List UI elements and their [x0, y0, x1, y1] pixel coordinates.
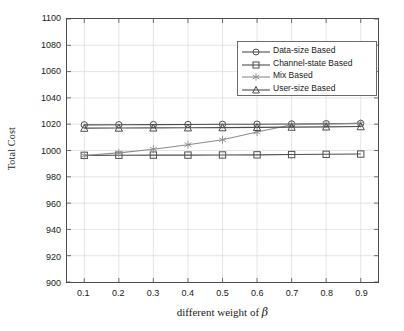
series-2 [81, 119, 364, 159]
legend: Data-size BasedChannel-state BasedMix Ba… [237, 41, 377, 96]
series-line [84, 154, 360, 155]
x-tick-label: 0.4 [181, 288, 194, 298]
x-tick-label: 0.5 [216, 288, 229, 298]
y-tick-label: 1000 [41, 146, 61, 156]
x-tick-label: 0.9 [355, 288, 368, 298]
x-axis-title-text: different weight of [177, 306, 262, 318]
y-tick-label: 920 [46, 252, 61, 262]
legend-marker-square-icon [241, 57, 271, 69]
y-axis-title: Total Cost [6, 127, 22, 170]
legend-item-star[interactable]: Mix Based [241, 69, 373, 82]
series-line [84, 127, 360, 129]
x-tick-label: 0.8 [321, 288, 334, 298]
legend-marker-star-icon [241, 69, 271, 81]
y-tick-label: 1100 [42, 13, 61, 23]
y-tick-label: 1020 [41, 119, 61, 129]
legend-marker-circle-icon [241, 44, 271, 56]
x-axis-tick-labels: 0.10.20.30.40.50.60.70.80.9 [66, 288, 379, 302]
y-tick-label: 1060 [41, 66, 61, 76]
y-tick-label: 940 [46, 225, 61, 235]
x-tick-label: 0.7 [286, 288, 299, 298]
x-tick-label: 0.1 [77, 288, 90, 298]
legend-label: Data-size Based [271, 45, 335, 55]
x-tick-label: 0.6 [251, 288, 264, 298]
y-tick-label: 1040 [41, 93, 61, 103]
beta-symbol: β [262, 306, 268, 319]
x-axis-title: different weight of β [66, 306, 379, 319]
y-tick-label: 1080 [41, 40, 61, 50]
y-tick-label: 960 [46, 199, 61, 209]
legend-item-triangle[interactable]: User-size Based [241, 82, 373, 95]
x-tick-label: 0.3 [147, 288, 160, 298]
legend-label: User-size Based [271, 83, 335, 93]
legend-label: Mix Based [271, 70, 313, 80]
legend-item-circle[interactable]: Data-size Based [241, 44, 373, 57]
x-tick-label: 0.2 [112, 288, 125, 298]
y-tick-label: 900 [46, 278, 61, 288]
legend-item-square[interactable]: Channel-state Based [241, 57, 373, 70]
legend-label: Channel-state Based [271, 58, 352, 68]
y-tick-label: 980 [46, 172, 61, 182]
legend-marker-triangle-icon [241, 82, 271, 94]
chart-page: 900920940960980100010201040106010801100 … [0, 0, 404, 331]
